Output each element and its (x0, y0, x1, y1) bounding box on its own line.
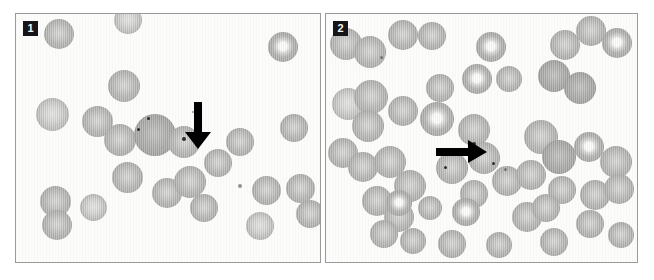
artifact-speck (380, 56, 383, 59)
panel-1: 1 (15, 13, 321, 263)
red-blood-cell (516, 160, 546, 190)
red-blood-cell (80, 194, 107, 221)
red-blood-cell (370, 220, 398, 248)
red-blood-cell (438, 230, 466, 258)
red-blood-cell (602, 28, 632, 58)
inclusion-body (444, 166, 447, 169)
red-blood-cell (280, 114, 308, 142)
panel-2: 2 (325, 13, 638, 263)
red-blood-cell (252, 176, 281, 205)
red-blood-cell (386, 190, 412, 216)
red-blood-cell (348, 152, 378, 182)
red-blood-cell (246, 212, 274, 240)
red-blood-cell (532, 194, 560, 222)
red-blood-cell (42, 210, 72, 240)
inclusion-body (492, 162, 495, 165)
red-blood-cell (462, 64, 492, 94)
red-blood-cell (268, 32, 298, 62)
panel-2-label: 2 (333, 21, 348, 36)
red-blood-cell (540, 228, 568, 256)
red-blood-cell (352, 110, 384, 142)
panel-1-label: 1 (23, 21, 38, 36)
red-blood-cell (296, 200, 321, 228)
artifact-speck (238, 184, 242, 188)
red-blood-cell (564, 72, 596, 104)
inclusion-body (147, 117, 150, 120)
red-blood-cell (418, 22, 446, 50)
red-blood-cell (354, 36, 386, 68)
red-blood-cell (420, 102, 454, 136)
red-blood-cell (190, 194, 218, 222)
red-blood-cell (112, 162, 143, 193)
red-blood-cell (36, 98, 69, 131)
red-blood-cell (400, 228, 426, 254)
red-blood-cell (108, 70, 140, 102)
red-blood-cell (226, 128, 254, 156)
red-blood-cell (426, 74, 454, 102)
red-blood-cell (452, 198, 480, 226)
red-blood-cell (486, 232, 512, 258)
red-blood-cell (354, 80, 388, 114)
red-blood-cell (286, 174, 315, 203)
red-blood-cell (388, 20, 418, 50)
red-blood-cell (604, 174, 634, 204)
inclusion-body (137, 128, 140, 131)
red-blood-cell (204, 149, 232, 177)
artifact-speck (504, 168, 507, 171)
red-blood-cell (104, 124, 136, 156)
red-blood-cell (44, 19, 74, 49)
red-blood-cell (388, 96, 418, 126)
red-blood-cell (476, 32, 506, 62)
red-blood-cell (496, 66, 522, 92)
red-blood-cell (542, 140, 576, 174)
red-blood-cell (418, 196, 442, 220)
down-arrow (184, 102, 212, 150)
figure-root: 1 2 (0, 0, 654, 280)
right-arrow (436, 140, 488, 164)
red-blood-cell (608, 222, 634, 248)
red-blood-cell (576, 210, 604, 238)
